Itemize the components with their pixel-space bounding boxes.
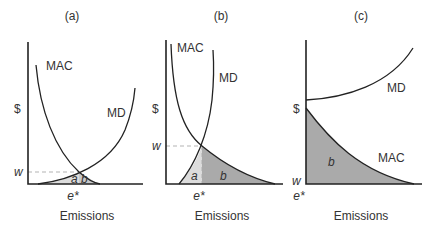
panel-c-mac-label: MAC (378, 151, 405, 165)
panel-a-mac-label: MAC (46, 59, 73, 73)
panel-a-y-label: $ (14, 102, 21, 116)
panel-c-title: (c) (354, 9, 368, 23)
panel-c-x-label: Emissions (334, 209, 389, 223)
panel-a-title: (a) (65, 9, 80, 23)
panel-a-md-curve (38, 88, 135, 184)
panel-c-w-label: w (292, 174, 302, 188)
panel-c: (c) MD MAC $ w b e* Emissions (292, 9, 422, 223)
panel-b-area-b (202, 146, 275, 184)
panel-a-area-b-label: b (81, 172, 88, 186)
abatement-diagram: (a) MAC MD $ w a b e* Emissions (b) MAC … (0, 0, 436, 236)
panel-b-x-label: Emissions (195, 209, 250, 223)
panel-a-x-label: Emissions (60, 209, 115, 223)
panel-b-title: (b) (214, 9, 229, 23)
panel-b-y-label: $ (152, 102, 159, 116)
panel-b-e-label: e* (193, 189, 205, 203)
panel-a-e-label: e* (67, 189, 79, 203)
panel-b-area-b-label: b (220, 169, 227, 183)
panel-b-mac-label: MAC (177, 41, 204, 55)
panel-a-md-label: MD (107, 106, 126, 120)
panel-c-area-b (306, 108, 414, 184)
panel-c-e-label: e* (293, 189, 305, 203)
panel-c-y-label: $ (293, 102, 300, 116)
panel-c-area-b-label: b (328, 155, 335, 169)
panel-a-w-label: w (14, 165, 24, 179)
panel-b-w-label: w (152, 139, 162, 153)
panel-a-mac-curve (36, 65, 100, 184)
panel-b: (b) MAC MD $ w a b e* Emissions (152, 9, 283, 223)
panel-a-area-a-label: a (71, 172, 78, 186)
panel-b-md-label: MD (219, 71, 238, 85)
panel-c-md-label: MD (387, 81, 406, 95)
panel-a: (a) MAC MD $ w a b e* Emissions (14, 9, 143, 223)
panel-b-area-a-label: a (191, 169, 198, 183)
